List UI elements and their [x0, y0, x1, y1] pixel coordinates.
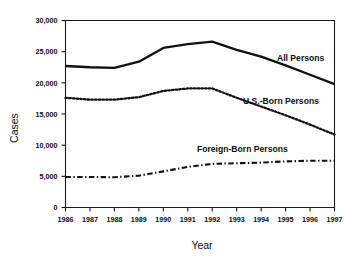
y-tick-label: 10,000: [36, 141, 58, 150]
y-tick-label: 25,000: [36, 47, 58, 56]
y-axis-tick-labels: 05,00010,00015,00020,00025,00030,000: [36, 16, 58, 212]
y-axis-ticks: [62, 21, 66, 208]
x-tick-label: 1989: [131, 215, 147, 224]
y-tick-label: 0: [54, 203, 58, 212]
y-tick-label: 30,000: [36, 16, 58, 25]
x-axis-title: Year: [191, 239, 213, 251]
y-tick-label: 20,000: [36, 79, 58, 88]
x-tick-label: 1988: [106, 215, 122, 224]
x-tick-label: 1992: [204, 215, 220, 224]
x-tick-label: 1987: [82, 215, 98, 224]
x-tick-label: 1995: [278, 215, 294, 224]
series-annotations: All PersonsU.S.-Born PersonsForeign-Born…: [197, 53, 325, 154]
y-tick-label: 5,000: [40, 172, 58, 181]
y-axis-title: Cases: [8, 113, 20, 143]
x-tick-label: 1991: [180, 215, 196, 224]
series-annotation-label: Foreign-Born Persons: [197, 144, 288, 154]
y-tick-label: 15,000: [36, 110, 58, 119]
series-line: [66, 161, 335, 178]
x-tick-label: 1986: [58, 215, 74, 224]
x-tick-label: 1996: [302, 215, 318, 224]
x-tick-label: 1993: [229, 215, 245, 224]
x-axis-ticks: [66, 208, 335, 212]
plot-frame-border: [66, 21, 335, 208]
x-tick-label: 1990: [155, 215, 171, 224]
plot-frame: [66, 21, 335, 208]
x-axis-tick-labels: 1986198719881989199019911992199319941995…: [58, 215, 343, 224]
series-annotation-label: All Persons: [277, 53, 325, 63]
line-chart: 05,00010,00015,00020,00025,00030,000 198…: [0, 0, 346, 256]
series-annotation-label: U.S.-Born Persons: [243, 96, 319, 106]
chart-container: 05,00010,00015,00020,00025,00030,000 198…: [0, 0, 346, 256]
x-tick-label: 1997: [327, 215, 343, 224]
x-tick-label: 1994: [253, 215, 269, 224]
